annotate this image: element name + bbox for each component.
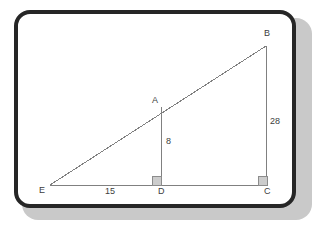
- right-angle-at-D: [152, 176, 161, 185]
- leg-BC: [266, 46, 267, 185]
- measure-label-ED: 15: [105, 187, 115, 196]
- hypotenuse-EB: [50, 46, 266, 185]
- right-angles-group: [152, 176, 267, 185]
- measure-label-BC: 28: [270, 117, 280, 126]
- vertex-label-A: A: [152, 96, 158, 105]
- vertex-label-C: C: [264, 187, 271, 196]
- diagram-canvas: E D C A B 15 8 28: [0, 0, 328, 235]
- segments-group: [50, 46, 267, 185]
- measure-label-AD: 8: [166, 137, 171, 146]
- vertex-label-D: D: [158, 187, 165, 196]
- vertex-label-B: B: [264, 29, 270, 38]
- vertex-label-E: E: [39, 186, 45, 195]
- right-angle-at-C: [258, 176, 267, 185]
